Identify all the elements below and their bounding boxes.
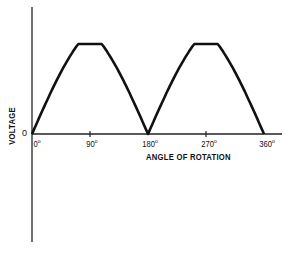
x-axis-label: ANGLE OF ROTATION: [146, 152, 231, 162]
x-tick-label-180: 180o: [142, 138, 158, 149]
y-tick-zero: 0: [22, 128, 27, 138]
y-axis-label: VOLTAGE: [7, 107, 17, 145]
x-tick-label-360: 360o: [259, 138, 275, 149]
x-tick-label-270: 270o: [201, 138, 217, 149]
chart-canvas: [0, 0, 288, 255]
x-tick-label-0: 0o: [33, 138, 40, 149]
x-tick-label-90: 90o: [86, 138, 97, 149]
voltage-waveform: [32, 44, 264, 134]
